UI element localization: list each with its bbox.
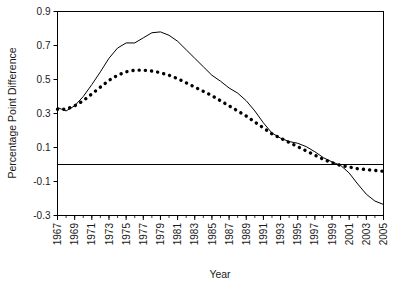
x-tick-label: 2003	[361, 223, 372, 246]
y-tick-label: 0.1	[37, 142, 51, 153]
x-tick-label: 1989	[241, 223, 252, 246]
x-tick-label: 1993	[275, 223, 286, 246]
x-tick-label: 1981	[172, 223, 183, 246]
x-tick-label: 1987	[224, 223, 235, 246]
y-tick-label: 0.7	[37, 40, 51, 51]
x-tick-label: 1991	[258, 223, 269, 246]
x-axis-label: Year	[209, 268, 231, 280]
x-tick-label: 1997	[309, 223, 320, 246]
x-tick-label: 2005	[378, 223, 389, 246]
line-chart: -0.3-0.10.10.30.50.70.9 1967196919711973…	[0, 0, 410, 287]
x-tick-label: 1985	[207, 223, 218, 246]
y-tick-label: 0.3	[37, 108, 51, 119]
x-tick-label: 1983	[189, 223, 200, 246]
x-tick-label: 1967	[52, 223, 63, 246]
y-tick-label: 0.5	[37, 74, 51, 85]
x-tick-label: 1995	[292, 223, 303, 246]
x-tick-label: 1975	[121, 223, 132, 246]
chart-figure: -0.3-0.10.10.30.50.70.9 1967196919711973…	[0, 0, 410, 287]
y-tick-label: 0.9	[37, 6, 51, 17]
x-tick-label: 2001	[344, 223, 355, 246]
x-tick-label: 1973	[104, 223, 115, 246]
x-tick-label: 1969	[69, 223, 80, 246]
y-tick-label: -0.3	[33, 210, 51, 221]
y-axis-label: Percentage Point Difference	[6, 47, 18, 178]
x-tick-label: 1999	[327, 223, 338, 246]
y-tick-label: -0.1	[33, 176, 51, 187]
x-tick-label: 1971	[86, 223, 97, 246]
x-tick-label: 1979	[155, 223, 166, 246]
x-tick-label: 1977	[138, 223, 149, 246]
